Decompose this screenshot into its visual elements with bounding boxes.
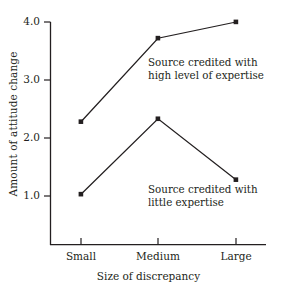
high-expertise-annotation-line1: Source credited with — [148, 56, 264, 69]
x-tick-label-small: Small — [46, 250, 116, 262]
high-expertise-annotation: Source credited with high level of exper… — [148, 56, 264, 81]
little-expertise-annotation-line2: little expertise — [148, 196, 258, 209]
little-expertise-annotation-line1: Source credited with — [148, 183, 258, 196]
data-point-little-medium — [156, 116, 161, 121]
high-expertise-annotation-line2: high level of expertise — [148, 69, 264, 82]
y-axis-ticks — [44, 22, 51, 196]
data-point-little-small — [79, 192, 84, 197]
y-tick-label-3: 3.0 — [8, 73, 40, 85]
x-axis-title: Size of discrepancy — [97, 270, 200, 282]
data-point-high-medium — [156, 36, 161, 41]
y-tick-label-2: 2.0 — [8, 131, 40, 143]
little-expertise-annotation: Source credited with little expertise — [148, 183, 258, 208]
data-point-high-small — [79, 119, 84, 124]
x-tick-label-large: Large — [201, 250, 271, 262]
data-point-high-large — [234, 20, 239, 25]
data-point-little-large — [234, 177, 239, 182]
y-tick-label-1: 1.0 — [8, 189, 40, 201]
x-axis-ticks — [81, 238, 236, 245]
x-tick-label-medium: Medium — [123, 250, 193, 262]
chart-figure: 4.0 3.0 2.0 1.0 Small Medium Large Amoun… — [0, 0, 281, 297]
y-tick-label-4: 4.0 — [8, 15, 40, 27]
x-axis-title-wrap: Size of discrepancy — [0, 270, 281, 282]
